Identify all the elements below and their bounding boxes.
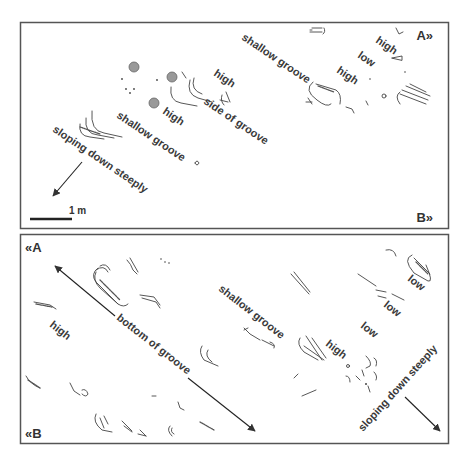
corner-label-b: «B [25, 426, 42, 441]
bottom-panel-border [21, 235, 449, 444]
scale-bar-label: 1 m [69, 205, 86, 216]
corner-label-a: «A [25, 240, 42, 255]
corner-label-a: A» [416, 28, 433, 43]
cupule-icon [167, 72, 177, 82]
cupule-icon [129, 62, 139, 72]
top-panel: 1 m sloping down steeply shallow groove … [21, 23, 449, 229]
cupule-icon [149, 98, 159, 108]
corner-label-b: B» [416, 210, 433, 225]
rock-art-diagram: 1 m sloping down steeply shallow groove … [0, 0, 471, 465]
bottom-panel: bottom of groove high shallow groove hig… [21, 235, 449, 444]
